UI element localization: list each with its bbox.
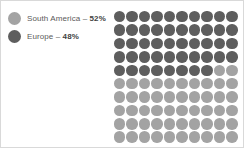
waffle-cell bbox=[188, 117, 201, 130]
waffle-dot-grid bbox=[113, 10, 238, 144]
waffle-cell bbox=[213, 64, 226, 77]
waffle-cell bbox=[226, 104, 239, 117]
waffle-dot-europe bbox=[176, 11, 188, 23]
waffle-dot-europe bbox=[164, 11, 176, 23]
waffle-cell bbox=[226, 23, 239, 36]
waffle-cell bbox=[126, 37, 139, 50]
waffle-dot-europe bbox=[164, 51, 176, 63]
waffle-cell bbox=[188, 131, 201, 144]
waffle-dot-south-america bbox=[226, 91, 238, 103]
waffle-dot-europe bbox=[176, 51, 188, 63]
waffle-dot-europe bbox=[214, 51, 226, 63]
waffle-cell bbox=[138, 50, 151, 63]
waffle-cell bbox=[138, 117, 151, 130]
waffle-cell bbox=[163, 37, 176, 50]
waffle-cell bbox=[188, 64, 201, 77]
waffle-cell bbox=[138, 10, 151, 23]
legend-item-south-america[interactable]: South America – 52% bbox=[8, 10, 112, 27]
chart-legend: South America – 52% Europe – 48% bbox=[8, 10, 112, 46]
waffle-dot-south-america bbox=[176, 105, 188, 117]
waffle-dot-europe bbox=[189, 51, 201, 63]
waffle-cell bbox=[113, 131, 126, 144]
waffle-cell bbox=[163, 23, 176, 36]
waffle-dot-europe bbox=[189, 65, 201, 77]
waffle-cell bbox=[188, 10, 201, 23]
waffle-dot-europe bbox=[189, 11, 201, 23]
waffle-dot-south-america bbox=[139, 78, 151, 90]
waffle-cell bbox=[213, 50, 226, 63]
waffle-dot-south-america bbox=[114, 91, 126, 103]
waffle-cell bbox=[176, 104, 189, 117]
waffle-dot-south-america bbox=[176, 131, 188, 143]
waffle-dot-europe bbox=[164, 38, 176, 50]
waffle-cell bbox=[113, 50, 126, 63]
waffle-dot-south-america bbox=[114, 118, 126, 130]
waffle-dot-south-america bbox=[126, 91, 138, 103]
waffle-dot-europe bbox=[126, 65, 138, 77]
waffle-dot-south-america bbox=[189, 105, 201, 117]
waffle-dot-south-america bbox=[151, 105, 163, 117]
waffle-cell bbox=[163, 131, 176, 144]
waffle-dot-europe bbox=[151, 65, 163, 77]
waffle-dot-south-america bbox=[164, 91, 176, 103]
waffle-dot-europe bbox=[176, 24, 188, 36]
waffle-cell bbox=[201, 64, 214, 77]
waffle-dot-europe bbox=[114, 65, 126, 77]
waffle-cell bbox=[213, 117, 226, 130]
waffle-dot-europe bbox=[214, 11, 226, 23]
waffle-cell bbox=[176, 50, 189, 63]
waffle-cell bbox=[226, 117, 239, 130]
waffle-cell bbox=[188, 37, 201, 50]
waffle-dot-south-america bbox=[201, 105, 213, 117]
legend-label-south-america: South America – 52% bbox=[27, 14, 106, 23]
waffle-dot-south-america bbox=[214, 118, 226, 130]
waffle-dot-south-america bbox=[164, 105, 176, 117]
waffle-cell bbox=[176, 131, 189, 144]
waffle-cell bbox=[201, 37, 214, 50]
waffle-dot-south-america bbox=[151, 131, 163, 143]
waffle-cell bbox=[213, 131, 226, 144]
legend-item-europe[interactable]: Europe – 48% bbox=[8, 28, 112, 45]
waffle-dot-europe bbox=[201, 38, 213, 50]
waffle-cell bbox=[113, 90, 126, 103]
waffle-dot-europe bbox=[226, 11, 238, 23]
waffle-cell bbox=[213, 37, 226, 50]
waffle-dot-europe bbox=[139, 65, 151, 77]
waffle-cell bbox=[113, 77, 126, 90]
waffle-cell bbox=[213, 77, 226, 90]
waffle-cell bbox=[188, 50, 201, 63]
waffle-cell bbox=[151, 10, 164, 23]
legend-label-europe: Europe – 48% bbox=[27, 32, 79, 41]
waffle-cell bbox=[151, 50, 164, 63]
waffle-dot-europe bbox=[151, 11, 163, 23]
waffle-cell bbox=[126, 90, 139, 103]
waffle-cell bbox=[213, 90, 226, 103]
waffle-dot-europe bbox=[114, 24, 126, 36]
waffle-cell bbox=[113, 64, 126, 77]
waffle-dot-europe bbox=[114, 38, 126, 50]
waffle-cell bbox=[201, 117, 214, 130]
waffle-cell bbox=[138, 77, 151, 90]
legend-name-south-america: South America bbox=[27, 14, 80, 23]
waffle-cell bbox=[188, 90, 201, 103]
waffle-dot-south-america bbox=[189, 118, 201, 130]
waffle-dot-europe bbox=[176, 38, 188, 50]
waffle-cell bbox=[126, 77, 139, 90]
waffle-dot-south-america bbox=[126, 105, 138, 117]
waffle-cell bbox=[201, 77, 214, 90]
waffle-dot-europe bbox=[226, 38, 238, 50]
waffle-dot-europe bbox=[139, 38, 151, 50]
waffle-cell bbox=[126, 10, 139, 23]
waffle-cell bbox=[138, 131, 151, 144]
waffle-dot-south-america bbox=[214, 131, 226, 143]
waffle-cell bbox=[176, 77, 189, 90]
waffle-dot-south-america bbox=[126, 118, 138, 130]
waffle-dot-south-america bbox=[151, 78, 163, 90]
waffle-cell bbox=[226, 50, 239, 63]
waffle-dot-south-america bbox=[201, 78, 213, 90]
waffle-dot-south-america bbox=[114, 105, 126, 117]
waffle-cell bbox=[126, 23, 139, 36]
waffle-cell bbox=[151, 117, 164, 130]
waffle-cell bbox=[138, 37, 151, 50]
waffle-dot-europe bbox=[126, 51, 138, 63]
